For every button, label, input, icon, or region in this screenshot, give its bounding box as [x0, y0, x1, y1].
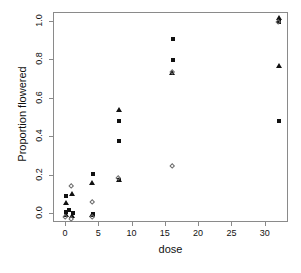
- y-tick-mark: [49, 175, 53, 176]
- data-points-layer: [54, 13, 289, 223]
- y-tick-label: 0.6: [0, 93, 46, 102]
- y-tick-label: 0.0: [0, 208, 46, 217]
- data-point-diamond: [68, 183, 74, 189]
- data-point-diamond: [169, 163, 175, 169]
- x-tick-mark: [65, 222, 66, 226]
- x-tick-label: 15: [155, 228, 175, 239]
- data-point-square: [117, 139, 121, 143]
- x-tick-mark: [231, 222, 232, 226]
- data-point-square: [91, 172, 95, 176]
- x-tick-mark: [165, 222, 166, 226]
- y-tick-mark: [49, 213, 53, 214]
- data-point-diamond: [89, 199, 95, 205]
- x-axis-label: dose: [53, 243, 288, 255]
- x-tick-label: 10: [122, 228, 142, 239]
- x-tick-label: 0: [55, 228, 75, 239]
- plot-area: [53, 12, 288, 222]
- y-tick-label: 0.8: [0, 54, 46, 63]
- x-tick-mark: [265, 222, 266, 226]
- data-point-square: [171, 37, 175, 41]
- y-tick-mark: [49, 59, 53, 60]
- scatter-plot-figure: Proportion flowered 051015202530 0.00.20…: [0, 0, 301, 273]
- x-tick-mark: [98, 222, 99, 226]
- data-point-square: [171, 58, 175, 62]
- y-tick-mark: [49, 98, 53, 99]
- y-tick-label: 0.2: [0, 170, 46, 179]
- y-tick-mark: [49, 21, 53, 22]
- x-tick-mark: [132, 222, 133, 226]
- data-point-square: [64, 194, 68, 198]
- data-point-diamond: [89, 214, 95, 220]
- x-tick-label: 25: [221, 228, 241, 239]
- x-tick-label: 20: [188, 228, 208, 239]
- data-point-square: [117, 119, 121, 123]
- y-tick-label: 0.4: [0, 131, 46, 140]
- data-point-triangle: [69, 191, 75, 196]
- data-point-triangle: [116, 107, 122, 112]
- x-tick-mark: [198, 222, 199, 226]
- y-axis-label: Proportion flowered: [16, 49, 28, 179]
- x-tick-label: 5: [88, 228, 108, 239]
- x-tick-label: 30: [255, 228, 275, 239]
- data-point-triangle: [63, 200, 69, 205]
- data-point-diamond: [68, 216, 74, 222]
- data-point-square: [277, 119, 281, 123]
- y-tick-mark: [49, 136, 53, 137]
- y-tick-label: 1.0: [0, 16, 46, 25]
- data-point-triangle: [89, 180, 95, 185]
- data-point-triangle: [276, 63, 282, 68]
